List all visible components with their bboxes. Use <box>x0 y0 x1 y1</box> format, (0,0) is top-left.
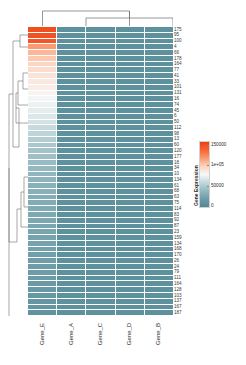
colorbar-tick-label: 50000 <box>211 183 224 188</box>
heatmap-figure: 1759510046617816477413310113116744565011… <box>0 0 246 365</box>
column-dendrogram <box>28 5 173 27</box>
colorbar-tick-mark <box>207 206 209 207</box>
column-label: Gene_E <box>40 323 46 345</box>
column-label: Gene_B <box>156 323 162 345</box>
heatmap-row <box>28 310 173 316</box>
heatmap-grid[interactable] <box>28 27 173 316</box>
colorbar-ticks: 1500001e+05500000 <box>209 136 243 211</box>
colorbar-tick-mark <box>207 165 209 166</box>
heatmap-cell[interactable] <box>145 310 173 316</box>
row-dendrogram <box>7 27 28 316</box>
column-label-row: Gene_EGene_AGene_CGene_DGene_B <box>28 317 173 363</box>
row-label: 187 <box>174 310 196 316</box>
column-label: Gene_A <box>69 323 75 345</box>
colorbar-tick-mark <box>207 186 209 187</box>
colorbar-tick-label: 0 <box>211 203 214 208</box>
column-label: Gene_C <box>97 323 103 345</box>
colorbar-tick-label: 150000 <box>211 142 226 147</box>
heatmap-cell[interactable] <box>116 310 145 316</box>
heatmap-cell[interactable] <box>28 310 57 316</box>
heatmap-cell[interactable] <box>57 310 86 316</box>
colorbar-tick-mark <box>207 145 209 146</box>
colorbar-legend: Gene Expression 1500001e+05500000 <box>186 136 244 216</box>
column-label: Gene_D <box>126 323 132 345</box>
colorbar-tick-label: 1e+05 <box>211 162 224 167</box>
heatmap-cell[interactable] <box>86 310 115 316</box>
